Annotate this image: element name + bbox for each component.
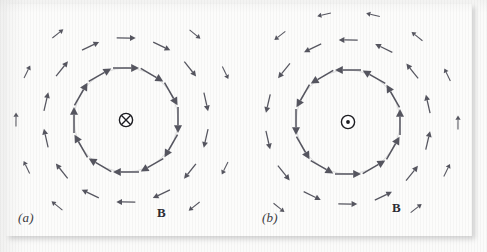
field-arrow-r1-9 [82,42,99,50]
arrow-head [335,66,343,74]
panel-b-caption: (b) [262,210,278,226]
field-arrow-r1-1 [184,164,196,179]
arrow-head [13,112,18,116]
arrow-shaft [390,92,399,108]
arrow-shaft [278,166,286,176]
arrow-head [424,95,430,101]
arrow-shaft [426,137,429,150]
field-arrow-r0-7 [74,83,87,106]
field-arrow-r0-6 [70,107,78,133]
arrow-shaft [204,93,207,106]
field-arrow-r1-12 [406,64,418,79]
field-arrow-r1-4 [304,192,321,200]
field-arrow-r0-11 [387,85,400,108]
arrow-head [174,125,182,133]
arrow-shaft [89,72,105,81]
panel-a-field-label: B [157,205,166,221]
arrow-shaft [52,32,60,38]
arrow-shaft [205,129,208,142]
field-arrow-r2-8 [52,29,63,38]
field-arrow-r2-1 [411,204,422,213]
field-arrow-r0-2 [141,159,164,172]
arrow-shaft [282,63,290,73]
arrow-head [426,131,432,137]
arrow-shaft [274,203,282,209]
field-arrow-r1-0 [202,129,208,148]
arrow-head [366,12,371,17]
arrow-shaft [415,35,423,41]
field-arrow-r0-5 [74,135,87,158]
field-arrow-r1-9 [304,44,321,52]
arrow-head [131,64,139,72]
arrow-head [204,105,210,111]
field-arrow-r2-4 [52,201,63,210]
arrow-head [396,109,404,117]
field-arrow-r2-5 [23,161,30,174]
field-arrow-r0-0 [174,107,182,133]
arrow-shaft [410,68,418,78]
arrow-shaft [311,161,327,170]
field-arrow-r2-0 [221,162,228,175]
field-arrow-r1-6 [42,129,48,148]
arrow-head [116,199,122,205]
arrow-head [264,107,270,113]
arrow-head [202,141,208,147]
field-arrow-r1-0 [426,131,432,150]
field-arrow-r2-7 [24,65,31,78]
field-arrow-r1-5 [56,164,68,179]
dot-center [346,120,350,124]
field-arrow-r1-8 [278,63,290,78]
arrow-shaft [25,165,29,174]
arrow-shaft [309,44,321,50]
field-arrow-r1-7 [44,92,50,111]
field-arrow-r2-12 [222,66,229,79]
arrow-shaft [192,202,200,208]
arrow-head [113,168,121,176]
arrow-head [266,143,272,149]
arrow-shaft [370,14,380,16]
field-arrow-r0-10 [141,68,164,81]
field-arrow-r2-1 [189,202,200,211]
field-arrow-r0-1 [165,135,178,158]
field-arrow-r0-4 [311,161,334,174]
arrow-shaft [267,94,270,107]
field-arrow-r1-3 [338,201,357,207]
field-arrow-r2-10 [366,12,380,17]
arrow-shaft [446,72,450,81]
field-arrow-r0-0 [396,109,404,135]
field-arrow-r1-12 [184,62,196,77]
arrow-shaft [188,164,196,174]
arrow-head [455,116,460,120]
arrow-shaft [278,31,286,37]
arrow-shaft [96,162,112,171]
arrow-shaft [56,66,64,76]
field-diagram-a [0,0,243,252]
arrow-head [317,13,322,18]
arrow-shaft [153,42,165,48]
field-arrow-r2-8 [274,31,285,40]
field-arrow-r0-11 [165,83,178,106]
center-symbol [119,113,132,126]
arrow-head [339,37,345,43]
field-arrow-r2-11 [412,32,423,41]
arrow-shaft [296,137,305,153]
field-arrow-r1-2 [375,192,392,200]
arrow-shaft [363,164,379,173]
field-arrow-r0-8 [311,70,334,83]
arrow-shaft [300,85,309,101]
arrow-head [44,92,50,98]
field-arrow-r1-8 [56,61,68,76]
arrow-shaft [158,190,170,196]
arrow-head [42,129,48,135]
arrow-shaft [321,13,331,15]
arrow-shaft [427,100,430,113]
arrow-shaft [87,192,99,198]
center-symbol [341,115,354,128]
field-arrow-r0-8 [89,68,112,81]
field-arrow-r1-2 [153,190,170,198]
arrow-shaft [380,47,392,53]
field-arrow-r1-4 [82,189,99,197]
arrow-shaft [387,144,396,160]
field-arrow-r0-2 [363,161,386,174]
panel-a-caption: (a) [18,210,34,226]
